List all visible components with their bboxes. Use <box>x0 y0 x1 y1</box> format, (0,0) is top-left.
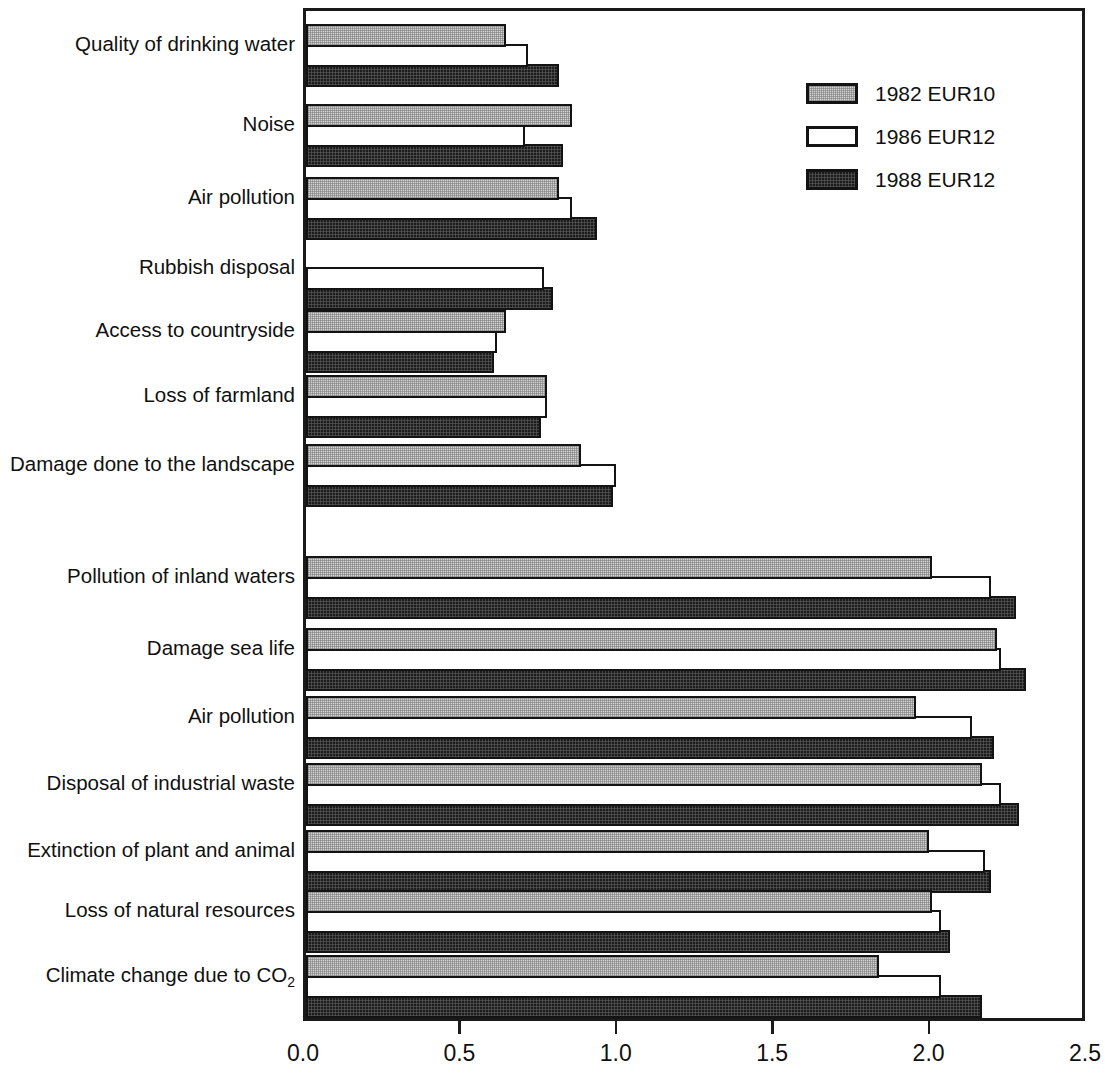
category-label: Climate change due to CO2 <box>46 964 295 988</box>
bar <box>306 330 497 353</box>
bar <box>306 464 616 487</box>
legend-swatch-icon <box>806 126 858 147</box>
x-axis-tick-label: 2.5 <box>1045 1040 1105 1066</box>
bar <box>306 415 541 438</box>
category-label: Access to countryside <box>96 319 295 341</box>
bar <box>306 144 563 167</box>
x-axis-tick <box>458 1021 461 1034</box>
bar <box>306 24 506 47</box>
category-label: Noise <box>243 113 295 135</box>
bar <box>306 375 547 398</box>
category-label: Damage done to the landscape <box>10 453 295 475</box>
legend-label: 1986 EUR12 <box>875 125 995 149</box>
bar <box>306 104 572 127</box>
bar <box>306 197 572 220</box>
x-axis-tick-label: 1.0 <box>576 1040 656 1066</box>
bar <box>306 995 982 1018</box>
bar <box>306 628 997 651</box>
x-axis-tick-label: 0.5 <box>419 1040 499 1066</box>
bar <box>306 44 528 67</box>
bar <box>306 64 559 87</box>
bar <box>306 287 553 310</box>
legend: 1982 EUR101986 EUR121988 EUR12 <box>806 72 1056 201</box>
bar <box>306 696 916 719</box>
x-axis-tick <box>928 1021 931 1034</box>
category-label: Loss of natural resources <box>65 899 295 921</box>
x-axis-tick <box>771 1021 774 1034</box>
bar <box>306 955 879 978</box>
category-label: Loss of farmland <box>143 384 295 406</box>
category-label: Air pollution <box>188 186 295 208</box>
bar <box>306 310 506 333</box>
bar <box>306 267 544 290</box>
bar <box>306 648 1001 671</box>
bar <box>306 783 1001 806</box>
x-axis-tick-label: 1.5 <box>732 1040 812 1066</box>
bar <box>306 124 525 147</box>
category-label: Quality of drinking water <box>75 33 295 55</box>
bar <box>306 217 597 240</box>
legend-label: 1988 EUR12 <box>875 168 995 192</box>
legend-swatch-icon <box>806 169 858 190</box>
category-label: Air pollution <box>188 705 295 727</box>
category-label: Disposal of industrial waste <box>47 772 295 794</box>
bar <box>306 576 991 599</box>
bar <box>306 395 547 418</box>
category-label: Pollution of inland waters <box>67 565 295 587</box>
bar <box>306 803 1019 826</box>
bar <box>306 556 932 579</box>
legend-swatch-icon <box>806 83 858 104</box>
bar <box>306 668 1026 691</box>
bar <box>306 350 494 373</box>
bar <box>306 596 1016 619</box>
legend-item: 1986 EUR12 <box>806 115 1056 158</box>
bar <box>306 177 559 200</box>
legend-label: 1982 EUR10 <box>875 82 995 106</box>
category-label: Extinction of plant and animal <box>27 839 295 861</box>
legend-item: 1982 EUR10 <box>806 72 1056 115</box>
bar <box>306 484 613 507</box>
bar <box>306 910 941 933</box>
x-axis-tick-label: 2.0 <box>889 1040 969 1066</box>
bar <box>306 763 982 786</box>
bar <box>306 830 929 853</box>
legend-item: 1988 EUR12 <box>806 158 1056 201</box>
bar <box>306 975 941 998</box>
bar <box>306 716 972 739</box>
subscript: 2 <box>287 974 295 990</box>
bar <box>306 890 932 913</box>
category-label: Rubbish disposal <box>139 256 295 278</box>
x-axis-tick <box>615 1021 618 1034</box>
bar <box>306 850 985 873</box>
category-label-column: Quality of drinking waterNoiseAir pollut… <box>0 8 295 1021</box>
x-axis-tick-label: 0.0 <box>263 1040 343 1066</box>
category-label: Damage sea life <box>147 637 295 659</box>
bar <box>306 736 994 759</box>
bar <box>306 930 950 953</box>
bar <box>306 444 581 467</box>
